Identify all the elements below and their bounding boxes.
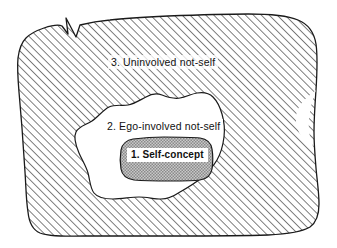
- diagram-canvas: 3. Uninvolved not-self 2. Ego-involved n…: [0, 0, 337, 248]
- region-label-uninvolved-not-self: 3. Uninvolved not-self: [108, 55, 218, 69]
- region-label-ego-involved-not-self: 2. Ego-involved not-self: [104, 119, 223, 133]
- region-label-self-concept: 1. Self-concept: [127, 148, 208, 162]
